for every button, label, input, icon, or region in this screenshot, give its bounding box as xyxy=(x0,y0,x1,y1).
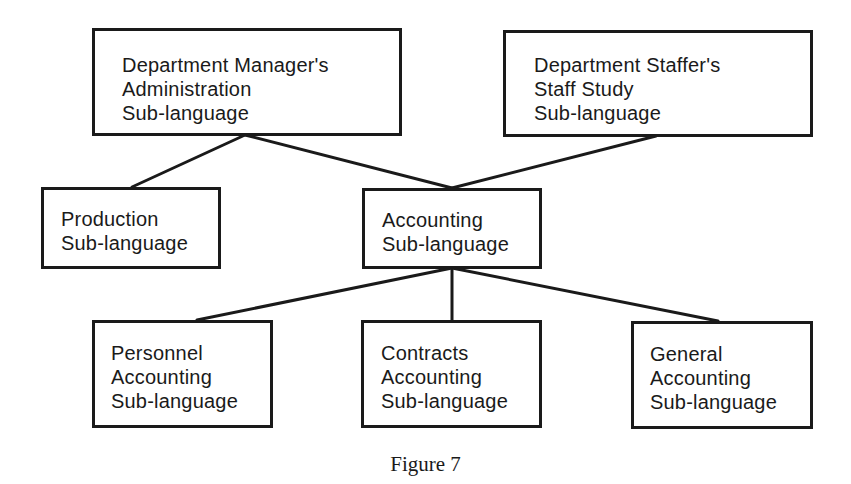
node-label-line: Sub-language xyxy=(650,390,810,414)
node-production: Production Sub-language xyxy=(41,187,221,269)
node-manager-administration: Department Manager's Administration Sub-… xyxy=(92,28,402,136)
node-label-line: Staff Study xyxy=(534,77,810,101)
node-label-line: Personnel xyxy=(111,341,270,365)
edge-manager-production xyxy=(132,135,245,187)
edge-accounting-general xyxy=(452,268,718,321)
edge-accounting-personnel xyxy=(197,268,452,320)
node-label-line: Sub-language xyxy=(381,389,539,413)
node-general-accounting: General Accounting Sub-language xyxy=(631,321,813,429)
node-label-line: Accounting xyxy=(382,208,539,232)
node-label-line: Department Staffer's xyxy=(534,53,810,77)
node-label-line: Sub-language xyxy=(111,389,270,413)
node-accounting: Accounting Sub-language xyxy=(362,188,542,269)
node-contracts-accounting: Contracts Accounting Sub-language xyxy=(361,320,542,428)
node-label-line: Sub-language xyxy=(61,231,218,255)
node-label-line: Production xyxy=(61,207,218,231)
node-label-line: Contracts xyxy=(381,341,539,365)
node-label-line: Sub-language xyxy=(122,101,399,125)
node-label-line: Sub-language xyxy=(382,232,539,256)
hierarchy-diagram: Department Manager's Administration Sub-… xyxy=(0,0,851,484)
node-label-line: Accounting xyxy=(381,365,539,389)
edge-staffer-accounting xyxy=(452,136,656,188)
node-label-line: General xyxy=(650,342,810,366)
node-label-line: Accounting xyxy=(650,366,810,390)
node-personnel-accounting: Personnel Accounting Sub-language xyxy=(92,320,273,428)
node-label-line: Administration xyxy=(122,77,399,101)
node-staffer-staff-study: Department Staffer's Staff Study Sub-lan… xyxy=(503,30,813,137)
node-label-line: Sub-language xyxy=(534,101,810,125)
node-label-line: Department Manager's xyxy=(122,53,399,77)
node-label-line: Accounting xyxy=(111,365,270,389)
edge-manager-accounting xyxy=(245,135,452,188)
figure-caption: Figure 7 xyxy=(0,452,851,477)
